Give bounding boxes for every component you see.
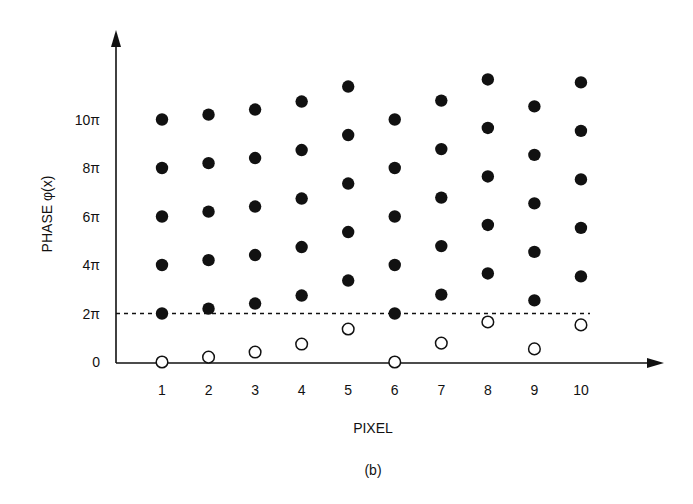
filled-point [528,246,540,258]
filled-point [482,170,494,182]
filled-point [575,173,587,185]
y-tick-label: 6π [83,209,101,225]
filled-point [249,249,261,261]
open-point [482,316,494,328]
filled-point [202,302,214,314]
filled-point [528,197,540,209]
filled-point [295,289,307,301]
open-point [203,351,215,363]
open-point [529,343,541,355]
x-tick-label: 6 [391,382,399,398]
open-point [342,323,354,335]
x-axis-label: PIXEL [353,420,393,436]
open-point [575,319,587,331]
filled-point [202,254,214,266]
filled-point [249,152,261,164]
filled-point [575,125,587,137]
x-tick-label: 10 [573,382,589,398]
filled-point [202,157,214,169]
phase-chart: 02π4π6π8π10π 12345678910 PHASE φ(x) PIXE… [0,0,693,504]
open-point [296,338,308,350]
filled-point [156,113,168,125]
filled-point [528,149,540,161]
x-tick-label: 1 [158,382,166,398]
filled-point [342,226,354,238]
filled-point [435,191,447,203]
y-tick-labels: 02π4π6π8π10π [75,112,101,371]
x-tick-label: 3 [251,382,259,398]
filled-point [435,143,447,155]
filled-point [342,177,354,189]
x-tick-labels: 12345678910 [158,382,589,398]
x-tick-label: 5 [344,382,352,398]
filled-point [528,100,540,112]
filled-point [389,307,401,319]
filled-point [202,108,214,120]
x-tick-label: 2 [205,382,213,398]
filled-point [389,113,401,125]
filled-point [575,76,587,88]
filled-point [482,219,494,231]
filled-point [389,259,401,271]
filled-point [342,274,354,286]
filled-point [156,210,168,222]
filled-point [342,129,354,141]
y-tick-label: 2π [83,306,101,322]
y-tick-label: 0 [92,354,100,370]
filled-point [295,144,307,156]
filled-point [435,240,447,252]
x-tick-label: 9 [531,382,539,398]
y-tick-label: 4π [83,257,101,273]
open-point [156,356,168,368]
figure-caption: (b) [364,462,381,478]
filled-point [249,200,261,212]
x-axis-arrow-icon [647,358,664,368]
filled-point [528,294,540,306]
filled-point [156,162,168,174]
filled-point [435,94,447,106]
filled-point [389,210,401,222]
y-tick-label: 8π [83,160,101,176]
filled-point [435,288,447,300]
filled-point [202,205,214,217]
y-axis-arrow-icon [111,30,121,47]
filled-point [482,122,494,134]
data-points [156,73,587,368]
open-point [436,337,448,349]
filled-point [249,103,261,115]
filled-point [295,192,307,204]
filled-point [482,267,494,279]
filled-point [482,73,494,85]
open-point [249,346,261,358]
filled-point [156,307,168,319]
open-point [389,356,401,368]
x-tick-label: 7 [437,382,445,398]
filled-point [295,241,307,253]
filled-point [389,162,401,174]
filled-point [575,222,587,234]
filled-point [249,297,261,309]
y-tick-label: 10π [75,112,101,128]
x-tick-label: 8 [484,382,492,398]
filled-point [575,270,587,282]
filled-point [156,259,168,271]
y-axis-label: PHASE φ(x) [39,176,55,253]
x-tick-label: 4 [298,382,306,398]
filled-point [342,80,354,92]
filled-point [295,95,307,107]
